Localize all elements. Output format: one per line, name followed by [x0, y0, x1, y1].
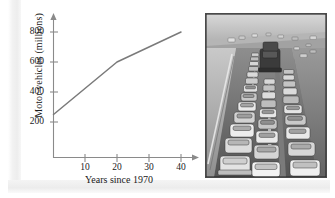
y-axis-arrow-icon [50, 13, 56, 20]
x-axis-title: Years since 1970 [44, 174, 194, 185]
x-axis [54, 154, 200, 160]
x-tick-label-20: 20 [106, 162, 128, 172]
x-tick-label-40: 40 [170, 162, 192, 172]
traffic-photograph: Black and white photograph of heavy traf… [205, 13, 327, 178]
x-tick-label-30: 30 [138, 162, 160, 172]
truck-vehicle [259, 49, 282, 72]
y-axis-title: Motor vehicles (millions) [33, 8, 44, 124]
line-chart-panel: 800 600 400 200 10 20 30 40 Motor vehicl… [18, 8, 200, 190]
scan-edge-top [0, 0, 335, 6]
figure-container: 800 600 400 200 10 20 30 40 Motor vehicl… [0, 0, 335, 198]
x-axis-arrow-icon [192, 154, 199, 160]
x-tick-label-10: 10 [74, 162, 96, 172]
y-axis [50, 13, 56, 158]
photo-image [206, 14, 326, 177]
data-series-line [54, 32, 182, 115]
